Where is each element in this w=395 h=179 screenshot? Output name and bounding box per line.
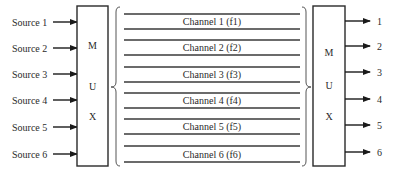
source-label: Source 3: [12, 69, 47, 80]
mux-left-letter-m: M: [88, 40, 97, 51]
source-label: Source 5: [12, 122, 47, 133]
output-label: 1: [377, 16, 382, 27]
source-label: Source 6: [12, 149, 47, 160]
source-label: Source 1: [12, 17, 47, 28]
source-inputs: Source 1Source 2Source 3Source 4Source 5…: [12, 17, 77, 160]
output-label: 5: [377, 120, 382, 131]
right-brace-icon: [302, 7, 311, 166]
channel-label: Channel 1 (f1): [183, 16, 241, 28]
channel-label: Channel 5 (f5): [183, 121, 241, 133]
output-label: 2: [377, 41, 382, 52]
channel-label: Channel 6 (f6): [183, 149, 241, 161]
mux-left-letter-x: X: [89, 111, 97, 122]
channel-label: Channel 2 (f2): [183, 42, 241, 54]
mux-right-letter-u: U: [325, 80, 333, 91]
mux-left-letter-u: U: [89, 81, 97, 92]
fdm-diagram: Source 1Source 2Source 3Source 4Source 5…: [0, 0, 395, 179]
left-brace-icon: [111, 7, 120, 166]
source-label: Source 2: [12, 43, 47, 54]
output-label: 4: [377, 94, 382, 105]
output-label: 3: [377, 67, 382, 78]
demux-outputs: 123456: [345, 16, 382, 158]
mux-right-letter-m: M: [325, 47, 334, 58]
channel-label: Channel 3 (f3): [183, 69, 241, 81]
channel-label: Channel 4 (f4): [183, 95, 241, 107]
source-label: Source 4: [12, 95, 47, 106]
output-label: 6: [377, 147, 382, 158]
channel-bands: Channel 1 (f1)Channel 2 (f2)Channel 3 (f…: [124, 14, 300, 162]
mux-right-letter-x: X: [325, 111, 333, 122]
